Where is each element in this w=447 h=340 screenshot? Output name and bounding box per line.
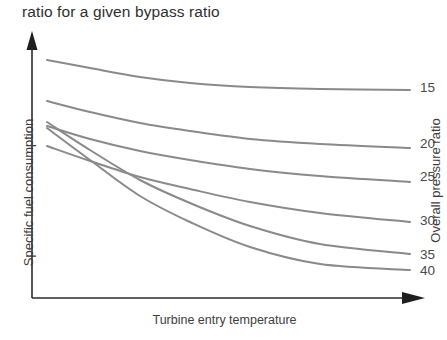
- curves-group: [47, 60, 410, 270]
- axes-group: [27, 31, 426, 304]
- curve-20: [47, 101, 410, 148]
- plot-canvas: [0, 0, 447, 340]
- y-axis-arrow-icon: [27, 31, 38, 50]
- x-axis-label: Turbine entry temperature: [32, 313, 417, 327]
- curve-label-40: 40: [420, 263, 435, 278]
- curve-label-15: 15: [420, 80, 435, 95]
- curve-15: [47, 60, 410, 90]
- x-axis-arrow-icon: [402, 292, 425, 304]
- chart-figure: ratio for a given bypass ratio 152025303…: [0, 0, 447, 340]
- curve-25: [47, 126, 410, 182]
- right-axis-label: Overall pressure ratio: [428, 101, 443, 261]
- y-axis-label: Specific fuel consumption: [21, 98, 36, 288]
